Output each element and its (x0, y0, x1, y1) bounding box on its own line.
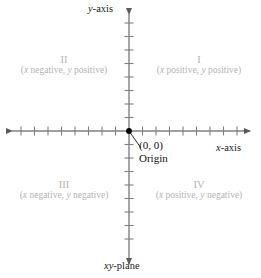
quadrant-2-label: II (x negative, y positive) (8, 54, 120, 76)
quadrant-2-description: (x negative, y positive) (8, 66, 120, 76)
origin-point (126, 128, 132, 134)
xy-plane-label-variable: xy (104, 260, 113, 271)
quadrant-3-close-paren: ) (105, 190, 108, 200)
quadrant-4-y-sign: negative (205, 190, 240, 200)
origin-coordinates: (0, 0) (139, 140, 168, 152)
quadrant-2-y-sign: positive (72, 65, 104, 75)
quadrant-1-label: I (x positive, y positive) (140, 54, 258, 76)
quadrant-1-x-sign: positive, (164, 65, 201, 75)
x-axis-label: x-axis (216, 142, 241, 153)
origin-annotation: (0, 0) Origin (139, 140, 168, 164)
quadrant-4-label: IV (x positive, y negative) (140, 179, 258, 201)
xy-plane-label-suffix: -plane (113, 260, 139, 271)
origin-label: Origin (139, 153, 168, 165)
quadrant-3-label: III (x negative, y negative) (8, 179, 120, 201)
quadrant-1-y-sign: positive (206, 65, 238, 75)
x-axis-label-suffix: -axis (221, 142, 241, 153)
quadrant-1-description: (x positive, y positive) (140, 66, 258, 76)
quadrant-1-close-paren: ) (238, 65, 241, 75)
quadrant-2-numeral: II (8, 54, 120, 65)
quadrant-3-y-sign: negative (71, 190, 106, 200)
quadrant-3-numeral: III (8, 179, 120, 190)
quadrant-1-numeral: I (140, 54, 258, 65)
quadrant-3-description: (x negative, y negative) (8, 191, 120, 201)
quadrant-4-close-paren: ) (239, 190, 242, 200)
y-axis-label: y-axis (88, 3, 113, 14)
quadrant-2-close-paren: ) (104, 65, 107, 75)
quadrant-4-x-sign: positive, (163, 190, 200, 200)
quadrant-3-x-sign: negative, (27, 190, 66, 200)
coordinate-plane-diagram: y-axis x-axis xy-plane II (x negative, y… (0, 0, 261, 278)
xy-plane-label: xy-plane (104, 260, 140, 271)
quadrant-4-numeral: IV (140, 179, 258, 190)
y-axis-label-suffix: -axis (93, 3, 113, 14)
quadrant-4-description: (x positive, y negative) (140, 191, 258, 201)
axes-and-ticks (0, 0, 261, 278)
quadrant-2-x-sign: negative, (28, 65, 67, 75)
